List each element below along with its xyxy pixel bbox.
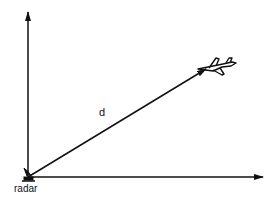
radar-label: radar	[14, 183, 37, 194]
range-vector	[28, 69, 206, 177]
distance-label: d	[99, 106, 105, 118]
airplane-icon	[198, 58, 236, 75]
radar-diagram	[0, 0, 277, 207]
